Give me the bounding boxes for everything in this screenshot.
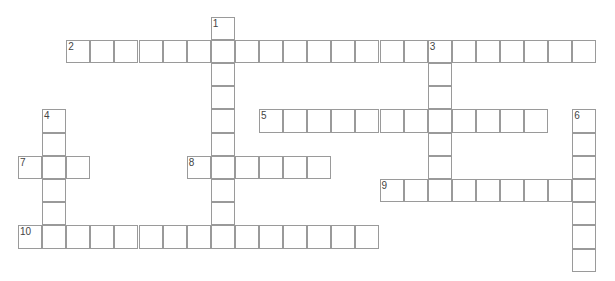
crossword-cell[interactable] bbox=[211, 109, 235, 132]
crossword-cell[interactable] bbox=[139, 40, 163, 63]
clue-number: 1 bbox=[213, 18, 219, 29]
crossword-cell[interactable] bbox=[476, 109, 500, 132]
crossword-cell[interactable] bbox=[500, 40, 524, 63]
crossword-cell[interactable] bbox=[524, 179, 548, 202]
crossword-cell[interactable] bbox=[548, 40, 572, 63]
crossword-cell[interactable] bbox=[452, 109, 476, 132]
crossword-cell[interactable] bbox=[163, 225, 187, 248]
crossword-cell[interactable] bbox=[572, 202, 596, 225]
crossword-cell[interactable]: 5 bbox=[259, 109, 283, 132]
crossword-cell[interactable] bbox=[428, 63, 452, 86]
crossword-grid: 12345678910 bbox=[0, 0, 615, 281]
crossword-cell[interactable] bbox=[572, 249, 596, 272]
crossword-cell[interactable] bbox=[211, 40, 235, 63]
crossword-cell[interactable] bbox=[428, 179, 452, 202]
crossword-cell[interactable] bbox=[572, 179, 596, 202]
crossword-cell[interactable] bbox=[452, 40, 476, 63]
crossword-cell[interactable]: 7 bbox=[18, 156, 42, 179]
crossword-cell[interactable] bbox=[42, 225, 66, 248]
crossword-cell[interactable] bbox=[331, 109, 355, 132]
crossword-cell[interactable] bbox=[283, 225, 307, 248]
clue-number: 3 bbox=[430, 41, 436, 52]
crossword-cell[interactable] bbox=[572, 156, 596, 179]
crossword-cell[interactable] bbox=[283, 156, 307, 179]
crossword-cell[interactable] bbox=[428, 86, 452, 109]
crossword-cell[interactable] bbox=[235, 156, 259, 179]
crossword-cell[interactable] bbox=[211, 86, 235, 109]
crossword-cell[interactable] bbox=[572, 133, 596, 156]
crossword-cell[interactable] bbox=[524, 109, 548, 132]
crossword-cell[interactable] bbox=[211, 63, 235, 86]
crossword-cell[interactable] bbox=[500, 109, 524, 132]
crossword-cell[interactable] bbox=[187, 40, 211, 63]
crossword-cell[interactable] bbox=[211, 133, 235, 156]
crossword-cell[interactable] bbox=[42, 133, 66, 156]
crossword-cell[interactable]: 3 bbox=[428, 40, 452, 63]
crossword-cell[interactable]: 10 bbox=[18, 225, 42, 248]
crossword-cell[interactable] bbox=[404, 179, 428, 202]
crossword-cell[interactable] bbox=[572, 225, 596, 248]
crossword-cell[interactable] bbox=[428, 109, 452, 132]
crossword-cell[interactable] bbox=[259, 40, 283, 63]
crossword-cell[interactable] bbox=[331, 225, 355, 248]
clue-number: 6 bbox=[574, 110, 580, 121]
crossword-cell[interactable]: 2 bbox=[66, 40, 90, 63]
crossword-cell[interactable] bbox=[452, 179, 476, 202]
crossword-cell[interactable] bbox=[428, 133, 452, 156]
crossword-cell[interactable] bbox=[428, 156, 452, 179]
clue-number: 5 bbox=[261, 110, 267, 121]
crossword-cell[interactable] bbox=[114, 40, 138, 63]
crossword-cell[interactable] bbox=[380, 40, 404, 63]
crossword-cell[interactable] bbox=[476, 179, 500, 202]
crossword-cell[interactable] bbox=[283, 109, 307, 132]
crossword-cell[interactable] bbox=[307, 156, 331, 179]
crossword-cell[interactable] bbox=[307, 225, 331, 248]
crossword-cell[interactable] bbox=[259, 156, 283, 179]
crossword-cell[interactable] bbox=[139, 225, 163, 248]
crossword-cell[interactable] bbox=[66, 225, 90, 248]
crossword-cell[interactable] bbox=[476, 40, 500, 63]
crossword-cell[interactable] bbox=[90, 225, 114, 248]
crossword-cell[interactable]: 8 bbox=[187, 156, 211, 179]
crossword-cell[interactable]: 6 bbox=[572, 109, 596, 132]
crossword-cell[interactable] bbox=[90, 40, 114, 63]
crossword-cell[interactable]: 9 bbox=[380, 179, 404, 202]
crossword-cell[interactable] bbox=[331, 40, 355, 63]
crossword-cell[interactable] bbox=[235, 225, 259, 248]
crossword-cell[interactable]: 4 bbox=[42, 109, 66, 132]
crossword-cell[interactable] bbox=[307, 109, 331, 132]
clue-number: 4 bbox=[44, 110, 50, 121]
crossword-cell[interactable] bbox=[380, 109, 404, 132]
crossword-cell[interactable] bbox=[42, 179, 66, 202]
clue-number: 2 bbox=[68, 41, 74, 52]
crossword-cell[interactable]: 1 bbox=[211, 17, 235, 40]
crossword-cell[interactable] bbox=[259, 225, 283, 248]
crossword-cell[interactable] bbox=[163, 40, 187, 63]
crossword-cell[interactable] bbox=[355, 225, 379, 248]
crossword-cell[interactable] bbox=[211, 179, 235, 202]
crossword-cell[interactable] bbox=[572, 40, 596, 63]
crossword-cell[interactable] bbox=[404, 40, 428, 63]
crossword-cell[interactable] bbox=[307, 40, 331, 63]
crossword-cell[interactable] bbox=[500, 179, 524, 202]
crossword-cell[interactable] bbox=[548, 179, 572, 202]
crossword-cell[interactable] bbox=[66, 156, 90, 179]
crossword-cell[interactable] bbox=[211, 225, 235, 248]
crossword-cell[interactable] bbox=[187, 225, 211, 248]
clue-number: 10 bbox=[20, 226, 31, 237]
crossword-cell[interactable] bbox=[235, 40, 259, 63]
clue-number: 9 bbox=[382, 180, 388, 191]
clue-number: 7 bbox=[20, 157, 26, 168]
crossword-cell[interactable] bbox=[283, 40, 307, 63]
crossword-cell[interactable] bbox=[211, 156, 235, 179]
crossword-cell[interactable] bbox=[114, 225, 138, 248]
crossword-cell[interactable] bbox=[355, 109, 379, 132]
crossword-cell[interactable] bbox=[211, 202, 235, 225]
crossword-cell[interactable] bbox=[355, 40, 379, 63]
crossword-cell[interactable] bbox=[42, 156, 66, 179]
crossword-cell[interactable] bbox=[42, 202, 66, 225]
crossword-cell[interactable] bbox=[404, 109, 428, 132]
crossword-cell[interactable] bbox=[524, 40, 548, 63]
clue-number: 8 bbox=[189, 157, 195, 168]
